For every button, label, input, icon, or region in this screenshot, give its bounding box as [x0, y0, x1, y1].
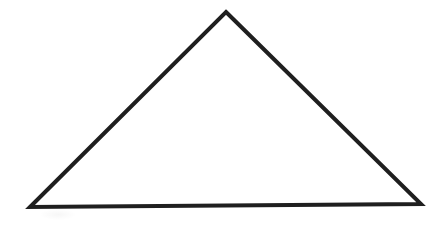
triangle-figure: [0, 0, 444, 226]
image-canvas: [0, 0, 444, 226]
background-rect: [0, 0, 444, 226]
